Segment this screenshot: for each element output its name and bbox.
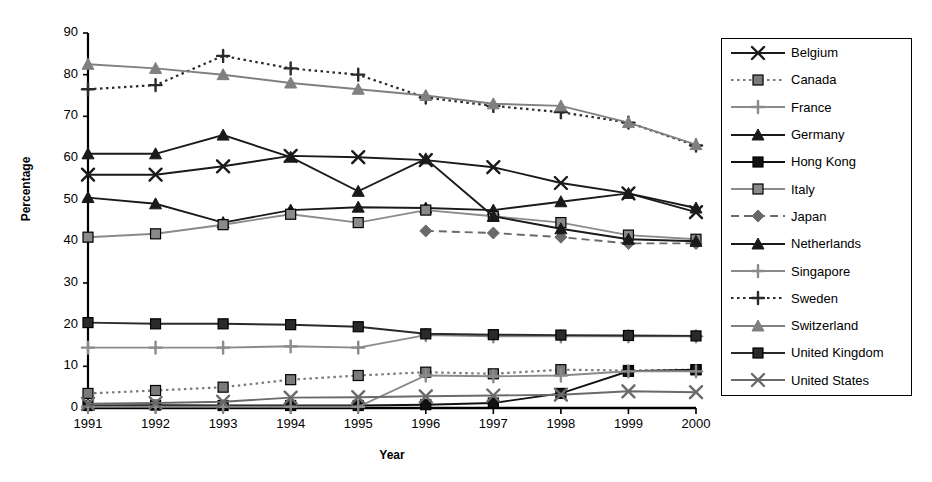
- legend-item-netherlands[interactable]: Netherlands: [722, 230, 911, 257]
- data-point-marker: [286, 375, 296, 385]
- data-point-marker: [286, 209, 296, 219]
- legend-item-switzerland[interactable]: Switzerland: [722, 312, 911, 339]
- data-point-marker: [753, 157, 763, 167]
- legend-marker-icon: [728, 370, 788, 390]
- legend-item-germany[interactable]: Germany: [722, 121, 911, 148]
- chart-legend: BelgiumCanadaFranceGermanyHong KongItaly…: [721, 38, 912, 396]
- y-tick-label: 40: [44, 234, 78, 245]
- y-tick-label: 90: [44, 26, 78, 37]
- series-germany: [82, 187, 702, 227]
- data-point-marker: [421, 205, 431, 215]
- legend-item-canada[interactable]: Canada: [722, 66, 911, 93]
- legend-marker-icon: [728, 261, 788, 281]
- data-point-marker: [752, 265, 764, 277]
- data-point-marker: [151, 319, 161, 329]
- series-sweden: [82, 50, 702, 152]
- data-point-marker: [353, 322, 363, 332]
- series-line: [88, 323, 696, 336]
- y-tick-label: 80: [44, 68, 78, 79]
- series-france: [82, 329, 702, 354]
- data-point-marker: [217, 50, 229, 62]
- data-point-marker: [753, 348, 763, 358]
- x-tick-label: 1992: [129, 416, 183, 431]
- data-point-marker: [753, 184, 763, 194]
- legend-label: Italy: [788, 182, 815, 197]
- data-point-marker: [753, 75, 763, 85]
- data-point-marker: [285, 340, 297, 352]
- legend-label: Singapore: [788, 264, 850, 279]
- chart-root: Percentage Year 010203040506070809019911…: [0, 0, 932, 482]
- data-point-marker: [150, 342, 162, 354]
- x-tick-label: 1998: [534, 416, 588, 431]
- data-point-marker: [285, 62, 297, 74]
- data-point-marker: [623, 331, 633, 341]
- legend-item-sweden[interactable]: Sweden: [722, 285, 911, 312]
- legend-marker-icon: [728, 70, 788, 90]
- series-line: [88, 64, 696, 144]
- legend-label: Germany: [788, 127, 844, 142]
- data-point-marker: [82, 342, 94, 354]
- data-point-marker: [752, 210, 764, 222]
- legend-item-united-kingdom[interactable]: United Kingdom: [722, 339, 911, 366]
- plot-canvas: [0, 0, 712, 482]
- data-point-marker: [487, 227, 499, 239]
- x-tick-label: 1995: [331, 416, 385, 431]
- data-point-marker: [488, 330, 498, 340]
- x-tick-label: 1991: [61, 416, 115, 431]
- line-chart: Percentage Year 010203040506070809019911…: [0, 0, 712, 482]
- legend-item-singapore[interactable]: Singapore: [722, 257, 911, 284]
- data-point-marker: [752, 101, 764, 113]
- legend-label: Netherlands: [788, 236, 861, 251]
- y-tick-label: 50: [44, 193, 78, 204]
- data-point-marker: [217, 129, 229, 140]
- data-point-marker: [752, 292, 764, 304]
- data-point-marker: [83, 232, 93, 242]
- data-point-marker: [83, 318, 93, 328]
- legend-label: France: [788, 100, 831, 115]
- y-tick-label: 30: [44, 276, 78, 287]
- data-point-marker: [218, 220, 228, 230]
- data-point-marker: [421, 329, 431, 339]
- legend-item-france[interactable]: France: [722, 94, 911, 121]
- x-tick-label: 1999: [601, 416, 655, 431]
- legend-item-hong-kong[interactable]: Hong Kong: [722, 148, 911, 175]
- legend-marker-icon: [728, 97, 788, 117]
- data-point-marker: [151, 229, 161, 239]
- series-canada: [83, 365, 701, 399]
- legend-marker-icon: [728, 316, 788, 336]
- legend-item-united-states[interactable]: United States: [722, 367, 911, 394]
- y-tick-label: 20: [44, 318, 78, 329]
- legend-label: United States: [788, 373, 869, 388]
- legend-marker-icon: [728, 288, 788, 308]
- x-tick-label: 1994: [264, 416, 318, 431]
- legend-marker-icon: [728, 125, 788, 145]
- legend-label: United Kingdom: [788, 345, 884, 360]
- legend-item-japan[interactable]: Japan: [722, 203, 911, 230]
- y-tick-label: 0: [44, 401, 78, 412]
- legend-marker-icon: [728, 343, 788, 363]
- series-line: [88, 135, 696, 241]
- series-netherlands: [82, 129, 702, 246]
- y-tick-label: 70: [44, 109, 78, 120]
- legend-label: Switzerland: [788, 318, 858, 333]
- legend-item-italy[interactable]: Italy: [722, 175, 911, 202]
- legend-marker-icon: [728, 152, 788, 172]
- legend-label: Japan: [788, 209, 826, 224]
- series-switzerland: [82, 58, 702, 149]
- data-point-marker: [218, 382, 228, 392]
- data-point-marker: [83, 388, 93, 398]
- legend-item-belgium[interactable]: Belgium: [722, 39, 911, 66]
- x-tick-label: 1997: [466, 416, 520, 431]
- legend-marker-icon: [728, 43, 788, 63]
- data-point-marker: [420, 225, 432, 237]
- x-tick-label: 1993: [196, 416, 250, 431]
- data-point-marker: [218, 319, 228, 329]
- series-line: [88, 391, 696, 404]
- data-point-marker: [352, 185, 364, 196]
- x-tick-label: 1996: [399, 416, 453, 431]
- series-line: [88, 335, 696, 348]
- legend-label: Belgium: [788, 45, 838, 60]
- data-point-marker: [217, 342, 229, 354]
- series-united-kingdom: [83, 318, 701, 341]
- data-point-marker: [82, 83, 94, 95]
